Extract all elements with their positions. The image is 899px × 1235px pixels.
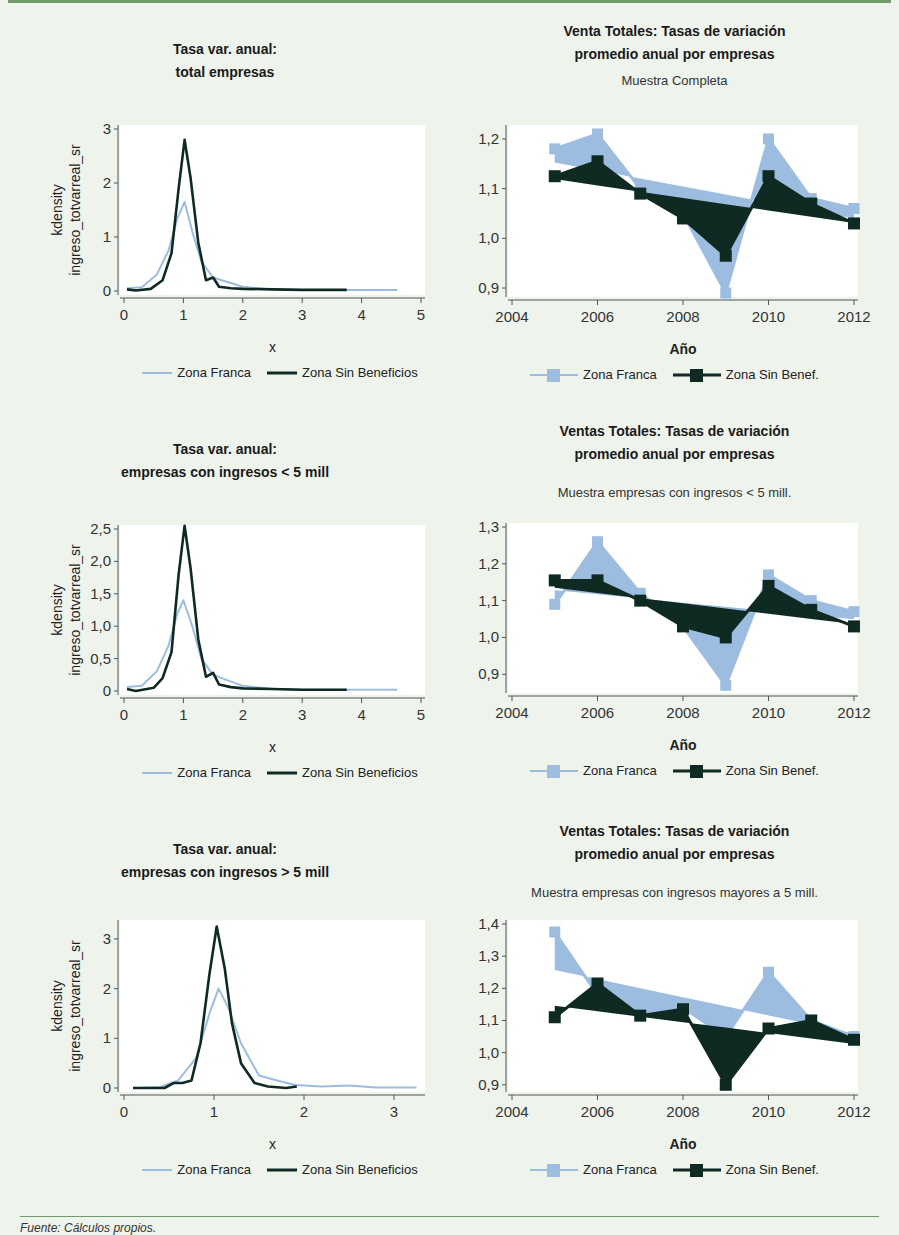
- svg-text:ingreso_totvarreal_sr: ingreso_totvarreal_sr: [67, 940, 83, 1072]
- x-tick-label: 2008: [666, 308, 699, 325]
- y-tick-label: 0: [103, 1079, 111, 1096]
- svg-text:ingreso_totvarreal_sr: ingreso_totvarreal_sr: [67, 144, 83, 276]
- y-tick-label: 1,0: [478, 628, 499, 645]
- y-axis-label: kdensityingreso_totvarreal_sr: [49, 144, 83, 276]
- legend-item-zona-sin-beneficios: Zona Sin Beneficios: [267, 1162, 418, 1177]
- data-marker: [805, 604, 817, 616]
- legend-label: Zona Franca: [177, 1162, 251, 1177]
- x-tick-label: 0: [120, 706, 128, 723]
- data-marker: [549, 574, 561, 586]
- legend-item-zona-sin-beneficios: Zona Sin Beneficios: [267, 765, 418, 780]
- x-axis-label: Año: [669, 737, 696, 753]
- data-marker: [634, 188, 646, 200]
- legend-swatch-icon: [142, 1163, 172, 1177]
- legend-item-zona-sin-beneficios: Zona Sin Benef.: [673, 367, 819, 382]
- legend-swatch-icon: [530, 764, 578, 778]
- legend-swatch-icon: [673, 764, 721, 778]
- x-tick-label: 2008: [666, 1103, 699, 1120]
- y-tick-label: 1,3: [478, 518, 499, 535]
- y-tick-label: 1,1: [478, 180, 499, 197]
- x-tick-label: 2: [239, 306, 247, 323]
- x-tick-label: 2004: [495, 308, 528, 325]
- chart-legend: Zona FrancaZona Sin Benef.: [450, 367, 899, 385]
- chart-svg: 01230123xkdensityingreso_totvarreal_sr: [0, 800, 450, 1215]
- panel-kd1: Tasa var. anual:total empresas0123012345…: [0, 0, 450, 400]
- x-tick-label: 2010: [752, 308, 785, 325]
- legend-item-zona-franca: Zona Franca: [530, 1162, 657, 1177]
- svg-text:kdensity: kdensity: [49, 584, 65, 635]
- data-marker: [549, 170, 561, 182]
- chart-legend: Zona FrancaZona Sin Beneficios: [0, 1162, 450, 1180]
- legend-item-zona-franca: Zona Franca: [142, 765, 251, 780]
- x-tick-label: 2: [239, 706, 247, 723]
- y-tick-label: 1,0: [90, 617, 111, 634]
- y-tick-label: 2,0: [90, 552, 111, 569]
- chart-svg: 00,51,01,52,02,5012345xkdensityingreso_t…: [0, 400, 450, 800]
- y-tick-label: 1: [103, 228, 111, 245]
- legend-label: Zona Sin Beneficios: [302, 765, 418, 780]
- y-tick-label: 1,4: [478, 915, 499, 932]
- x-tick-label: 2004: [495, 1103, 528, 1120]
- data-marker: [592, 128, 603, 139]
- data-marker: [677, 620, 689, 632]
- data-marker: [763, 580, 775, 592]
- x-tick-label: 2006: [581, 704, 614, 721]
- x-tick-label: 3: [390, 1103, 398, 1120]
- data-marker: [592, 574, 604, 586]
- legend-swatch-icon: [530, 368, 578, 382]
- data-marker: [848, 217, 860, 229]
- x-tick-label: 2010: [752, 704, 785, 721]
- x-tick-label: 2004: [495, 704, 528, 721]
- legend-swatch-icon: [267, 766, 297, 780]
- data-marker: [720, 631, 732, 643]
- y-tick-label: 0,9: [478, 1076, 499, 1093]
- chart-legend: Zona FrancaZona Sin Beneficios: [0, 765, 450, 783]
- legend-item-zona-franca: Zona Franca: [530, 763, 657, 778]
- data-marker: [763, 1023, 775, 1035]
- panel-ts3: Ventas Totales: Tasas de variaciónpromed…: [450, 800, 899, 1215]
- y-axis-label: kdensityingreso_totvarreal_sr: [49, 544, 83, 676]
- x-tick-label: 2008: [666, 704, 699, 721]
- legend-swatch-icon: [673, 368, 721, 382]
- y-tick-label: 3: [103, 930, 111, 947]
- chart-svg: 0123012345xkdensityingreso_totvarreal_sr: [0, 0, 450, 400]
- data-marker: [720, 250, 732, 262]
- svg-text:ingreso_totvarreal_sr: ingreso_totvarreal_sr: [67, 544, 83, 676]
- legend-swatch-icon: [673, 1163, 721, 1177]
- y-tick-label: 1: [103, 1029, 111, 1046]
- legend-label: Zona Franca: [583, 367, 657, 382]
- legend-label: Zona Sin Benef.: [726, 763, 819, 778]
- legend-swatch-icon: [267, 1163, 297, 1177]
- source-note: Fuente: Cálculos propios.: [20, 1221, 156, 1235]
- y-tick-label: 1,3: [478, 947, 499, 964]
- data-marker: [592, 977, 604, 989]
- panel-ts2: Ventas Totales: Tasas de variaciónpromed…: [450, 400, 899, 800]
- y-tick-label: 0: [103, 682, 111, 699]
- legend-item-zona-franca: Zona Franca: [530, 367, 657, 382]
- chart-legend: Zona FrancaZona Sin Beneficios: [0, 365, 450, 383]
- x-tick-label: 0: [120, 1103, 128, 1120]
- data-marker: [677, 1003, 689, 1015]
- data-marker: [849, 203, 860, 214]
- y-tick-label: 1,0: [478, 1044, 499, 1061]
- x-tick-label: 4: [357, 706, 365, 723]
- legend-swatch-icon: [267, 366, 297, 380]
- x-tick-label: 2012: [837, 308, 870, 325]
- x-tick-label: 1: [179, 706, 187, 723]
- data-marker: [592, 536, 603, 547]
- y-tick-label: 1,0: [478, 229, 499, 246]
- x-axis-label: x: [269, 739, 276, 755]
- legend-swatch-icon: [142, 366, 172, 380]
- data-marker: [763, 170, 775, 182]
- legend-label: Zona Sin Benef.: [726, 367, 819, 382]
- y-tick-label: 0,5: [90, 650, 111, 667]
- bottom-rule: [20, 1216, 879, 1217]
- data-marker: [677, 212, 689, 224]
- x-axis-label: Año: [669, 1136, 696, 1152]
- y-axis-label: kdensityingreso_totvarreal_sr: [49, 940, 83, 1072]
- x-tick-label: 0: [120, 306, 128, 323]
- x-tick-label: 5: [417, 706, 425, 723]
- y-tick-label: 0,9: [478, 665, 499, 682]
- y-tick-label: 0,9: [478, 279, 499, 296]
- data-marker: [763, 967, 774, 978]
